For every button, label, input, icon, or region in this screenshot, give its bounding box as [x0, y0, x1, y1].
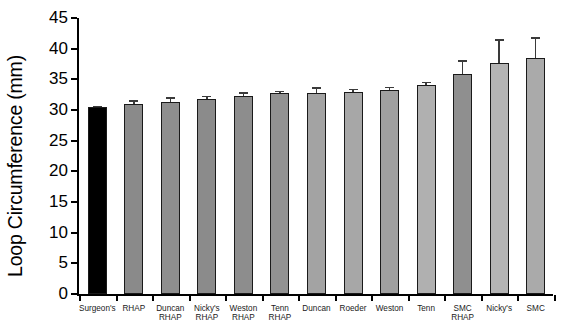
bar	[270, 93, 289, 294]
y-tick-label: 40	[49, 39, 68, 59]
x-tick-mark	[481, 295, 483, 301]
error-bar-cap	[312, 87, 321, 89]
y-tick-mark	[71, 232, 77, 234]
y-tick-mark	[71, 293, 77, 295]
y-tick-label: 45	[49, 8, 68, 28]
y-tick-mark	[71, 109, 77, 111]
bar	[417, 85, 436, 294]
x-category-label: Duncan	[298, 304, 335, 313]
x-category-label: Surgeon's	[79, 304, 116, 313]
bar	[490, 63, 509, 294]
x-tick-mark	[79, 295, 81, 301]
y-tick-mark	[71, 48, 77, 50]
x-category-label: Tenn	[408, 304, 445, 313]
x-category-label: Nicky's RHAP	[189, 304, 226, 323]
error-bar-cap	[275, 91, 284, 93]
x-tick-mark	[152, 295, 154, 301]
y-tick-mark	[71, 170, 77, 172]
error-bar-cap	[458, 60, 467, 62]
x-tick-mark	[408, 295, 410, 301]
error-bar-stem	[498, 39, 500, 63]
bar	[307, 93, 326, 294]
bar	[124, 104, 143, 294]
y-axis-title: Loop Circumference (mm)	[0, 0, 30, 332]
bar	[526, 58, 545, 294]
x-tick-mark	[262, 295, 264, 301]
x-category-label: Nicky's	[481, 304, 518, 313]
error-bar-stem	[462, 60, 464, 74]
error-bar-cap	[422, 82, 431, 84]
x-tick-mark	[517, 295, 519, 301]
y-tick-mark	[71, 17, 77, 19]
x-tick-mark	[444, 295, 446, 301]
x-category-label: SMC RHAP	[444, 304, 481, 323]
x-category-label: Roeder	[335, 304, 372, 313]
x-tick-mark	[189, 295, 191, 301]
y-tick-label: 10	[49, 223, 68, 243]
x-tick-mark	[371, 295, 373, 301]
y-tick-label: 35	[49, 69, 68, 89]
x-tick-mark	[116, 295, 118, 301]
error-bar-cap	[166, 97, 175, 99]
bar	[380, 90, 399, 294]
x-tick-mark	[225, 295, 227, 301]
x-category-label: SMC	[517, 304, 554, 313]
error-bar-stem	[535, 37, 537, 58]
bar-chart-figure: Loop Circumference (mm) 0510152025303540…	[0, 0, 561, 332]
x-category-label: Tenn RHAP	[262, 304, 299, 323]
y-tick-mark	[71, 262, 77, 264]
x-category-label: Weston RHAP	[225, 304, 262, 323]
x-tick-mark	[335, 295, 337, 301]
bar	[344, 92, 363, 294]
error-bar-cap	[531, 37, 540, 39]
error-bar-cap	[129, 100, 138, 102]
y-tick-label: 20	[49, 161, 68, 181]
y-tick-label: 25	[49, 131, 68, 151]
bar	[453, 74, 472, 294]
bar	[161, 102, 180, 294]
bar	[234, 96, 253, 294]
x-tick-mark	[298, 295, 300, 301]
y-tick-label: 5	[59, 253, 68, 273]
bar	[88, 107, 107, 294]
x-category-label: Duncan RHAP	[152, 304, 189, 323]
plot-area: 051015202530354045 Surgeon'sRHAPDuncan R…	[78, 18, 553, 294]
y-tick-mark	[71, 201, 77, 203]
bar	[197, 99, 216, 294]
y-axis-line	[77, 18, 79, 295]
x-category-label: Weston	[371, 304, 408, 313]
error-bar-cap	[202, 96, 211, 98]
x-tick-mark	[554, 295, 556, 301]
error-bar-cap	[349, 89, 358, 91]
error-bar-cap	[495, 39, 504, 41]
y-tick-label: 15	[49, 192, 68, 212]
y-tick-mark	[71, 140, 77, 142]
y-tick-mark	[71, 78, 77, 80]
error-bar-cap	[239, 92, 248, 94]
x-category-label: RHAP	[116, 304, 153, 313]
y-tick-label: 0	[59, 284, 68, 304]
error-bar-cap	[93, 106, 102, 108]
error-bar-cap	[385, 87, 394, 89]
y-tick-label: 30	[49, 100, 68, 120]
